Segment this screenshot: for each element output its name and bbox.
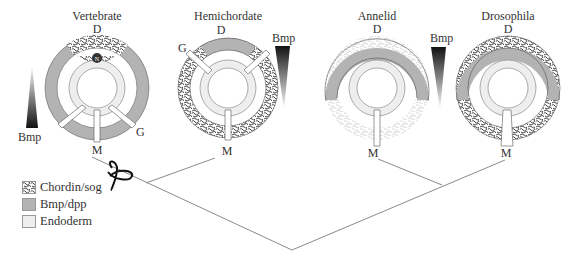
svg-text:Bmp: Bmp (430, 31, 453, 45)
gut-label: G (178, 41, 187, 55)
bmp-swatch (22, 198, 36, 211)
vertebrate-embryo: N Vertebrate D M G (45, 9, 149, 157)
organism-title: Drosophila (481, 9, 535, 23)
organism-title: Annelid (358, 9, 397, 23)
ventral-label: M (501, 146, 512, 160)
dorsal-label: D (504, 22, 513, 36)
inversion-loop-icon (108, 161, 132, 190)
organism-title: Vertebrate (72, 9, 121, 23)
annelid-embryo: Annelid D M (325, 9, 429, 160)
chordin-swatch (22, 181, 36, 194)
notochord-label: N (95, 56, 100, 62)
legend-label: Chordin/sog (40, 180, 102, 195)
bmp-gradient-vertebrate: Bmp (18, 64, 41, 144)
legend-item-bmp: Bmp/dpp (22, 196, 102, 213)
hemichordate-embryo: Hemichordate D M G (178, 9, 278, 158)
legend-item-chordin: Chordin/sog (22, 179, 102, 196)
ventral-label: M (222, 144, 233, 158)
legend-label: Endoderm (40, 214, 92, 229)
svg-text:Bmp: Bmp (272, 31, 295, 45)
ventral-label: M (368, 146, 379, 160)
dorsal-label: D (93, 22, 102, 36)
gut-label: G (136, 125, 145, 139)
dorsal-label: D (217, 23, 226, 37)
bmp-gradient-annelid: Bmp (430, 31, 453, 110)
svg-text:Bmp: Bmp (18, 130, 41, 144)
endoderm-swatch (22, 215, 36, 228)
dorsal-label: D (373, 22, 382, 36)
legend: Chordin/sog Bmp/dpp Endoderm (22, 179, 102, 230)
phylogeny-tree (92, 157, 505, 250)
drosophila-embryo: Drosophila D M (456, 9, 560, 160)
ventral-label: M (92, 143, 103, 157)
legend-label: Bmp/dpp (40, 197, 87, 212)
legend-item-endoderm: Endoderm (22, 213, 102, 230)
organism-title: Hemichordate (194, 9, 262, 23)
